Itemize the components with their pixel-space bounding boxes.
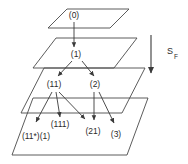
node-label-0: (0) — [69, 10, 80, 20]
node-label-21: (21) — [85, 126, 100, 136]
plane-level-3 — [12, 98, 148, 155]
node-label-2: (2) — [90, 79, 101, 89]
node-label-3: (3) — [111, 129, 122, 139]
edge-11-to-21 — [59, 92, 85, 119]
plane-level-0 — [48, 9, 129, 28]
s-f-axis-label: S — [167, 46, 173, 56]
node-label-11: (11) — [47, 79, 62, 89]
plane-level-2 — [21, 68, 145, 113]
plane-level-1 — [33, 38, 137, 68]
edge-2-to-3 — [99, 92, 114, 123]
s-f-axis-subscript: F — [174, 53, 178, 60]
edge-1-to-11 — [58, 61, 72, 76]
node-label-11star-1: (11*)(1) — [22, 131, 50, 141]
node-label-1: (1) — [71, 49, 82, 59]
partition-refinement-diagram: (0) (1) (11) (2) (11*)(1) (111) (21) (3)… — [0, 0, 188, 164]
edge-1-to-2 — [82, 61, 94, 76]
node-label-111: (111) — [51, 119, 70, 129]
edge-11-to-11star1 — [36, 92, 52, 122]
